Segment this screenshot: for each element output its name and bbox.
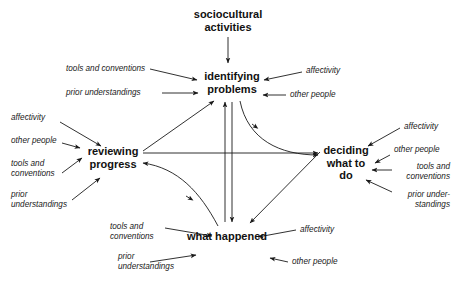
label-identifying-tools-and-conventions: tools and conventions — [66, 64, 145, 74]
node-sociocultural-activities: sociocultural activities — [178, 8, 278, 33]
label-whathappened-other-people: other people — [292, 257, 338, 267]
label-reviewing-affectivity: affectivity — [11, 113, 45, 123]
label-whathappened-affectivity: affectivity — [300, 225, 334, 235]
node-whathappened-line1: what happened — [185, 230, 269, 243]
label-reviewing-other-people: other people — [11, 136, 57, 146]
arrow-influence-affectivity-to-identifying — [264, 72, 302, 80]
curve-identifying-to-deciding-midhead — [252, 124, 256, 127]
node-sociocultural-line1: sociocultural — [178, 8, 278, 21]
label-reviewing-tools-line1: tools and — [11, 159, 44, 169]
arrow-influence-otherpeople-to-whathappened — [270, 258, 288, 262]
node-what-happened: what happened — [185, 230, 269, 243]
label-identifying-affectivity: affectivity — [306, 66, 340, 76]
label-whathappened-prior-line1: prior — [118, 252, 134, 262]
arrow-influence-prior-to-whathappened — [150, 255, 196, 262]
label-reviewing-prior-line2: understandings — [11, 200, 67, 210]
label-deciding-prior-line1: prior under- — [340, 190, 450, 200]
node-deciding-line1: deciding — [320, 144, 372, 157]
arrow-influence-otherpeople-to-reviewing — [62, 143, 80, 148]
arrow-influence-prior-to-reviewing — [72, 178, 100, 200]
arrow-influence-tools-to-identifying — [150, 69, 197, 80]
arrow-influence-affectivity-to-deciding — [368, 128, 400, 146]
node-identifying-problems: identifying problems — [198, 70, 266, 95]
label-deciding-tools-line1: tools and — [340, 162, 450, 172]
label-whathappened-tools-line1: tools and — [110, 222, 143, 232]
label-whathappened-tools-line2: conventions — [110, 232, 154, 242]
label-reviewing-prior-line1: prior — [11, 190, 27, 200]
label-deciding-prior-line2: standings — [340, 200, 450, 210]
label-whathappened-prior-line2: understandings — [118, 262, 174, 272]
node-identifying-line2: problems — [198, 83, 266, 96]
curve-whathappened-to-reviewing — [143, 163, 218, 226]
arrow-influence-affectivity-to-reviewing — [60, 122, 101, 146]
diagram-canvas: sociocultural activities identifying pro… — [0, 0, 458, 284]
label-identifying-prior-understandings: prior understandings — [66, 88, 141, 98]
label-deciding-other-people: other people — [394, 145, 440, 155]
label-reviewing-tools-line2: conventions — [11, 169, 55, 179]
label-deciding-tools-line2: conventions — [340, 172, 450, 182]
arrow-deciding-to-whathappened — [250, 152, 320, 223]
node-sociocultural-line2: activities — [178, 21, 278, 34]
node-identifying-line1: identifying — [198, 70, 266, 83]
label-identifying-other-people: other people — [290, 90, 336, 100]
curve-whathappened-to-reviewing-midhead — [186, 196, 191, 199]
curve-identifying-to-deciding — [240, 101, 318, 155]
arrow-influence-tools-to-reviewing — [62, 158, 82, 173]
arrow-reviewing-to-identifying — [143, 101, 214, 151]
node-reviewing-progress: reviewing progress — [82, 145, 144, 170]
label-deciding-affectivity: affectivity — [404, 122, 438, 132]
node-reviewing-line2: progress — [82, 158, 144, 171]
node-reviewing-line1: reviewing — [82, 145, 144, 158]
